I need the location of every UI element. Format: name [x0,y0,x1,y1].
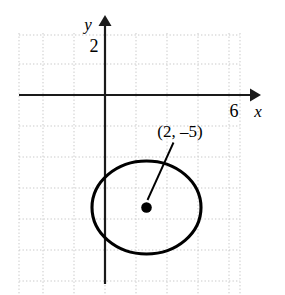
center-point-dot [141,202,152,213]
x-axis-tick-label: 6 [230,101,239,121]
center-point-label: (2, –5) [157,122,202,141]
y-axis-label: y [82,15,92,34]
x-axis-label: x [253,102,262,121]
x-axis-arrowhead [250,89,261,102]
y-axis-arrowhead [99,15,112,26]
y-axis-tick-label: 2 [90,36,99,56]
leader-line [148,143,174,201]
coordinate-plane-figure: y 2 x 6 (2, –5) [0,0,285,295]
x-axis [19,89,261,102]
